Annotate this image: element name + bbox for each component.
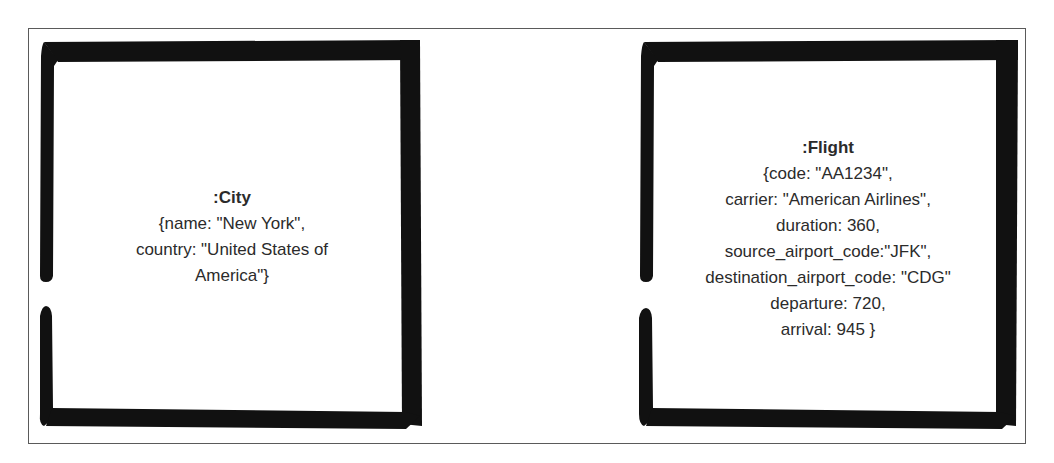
node-property-line: carrier: "American Airlines", [636,187,1020,213]
flight-node[interactable]: :Flight {code: "AA1234", carrier: "Ameri… [636,36,1020,434]
node-property-line: destination_airport_code: "CDG" [636,265,1020,291]
node-property-line: America"} [36,263,428,289]
node-property-line: source_airport_code:"JFK", [636,239,1020,265]
city-node-text: :City {name: "New York", country: "Unite… [36,185,428,289]
city-node[interactable]: :City {name: "New York", country: "Unite… [36,36,428,434]
node-label: :City [36,185,428,211]
node-property-line: {code: "AA1234", [636,161,1020,187]
node-property-line: departure: 720, [636,291,1020,317]
node-property-line: arrival: 945 } [636,317,1020,343]
flight-node-text: :Flight {code: "AA1234", carrier: "Ameri… [636,135,1020,343]
node-property-line: country: "United States of [36,237,428,263]
node-property-line: duration: 360, [636,213,1020,239]
node-label: :Flight [636,135,1020,161]
node-property-line: {name: "New York", [36,211,428,237]
